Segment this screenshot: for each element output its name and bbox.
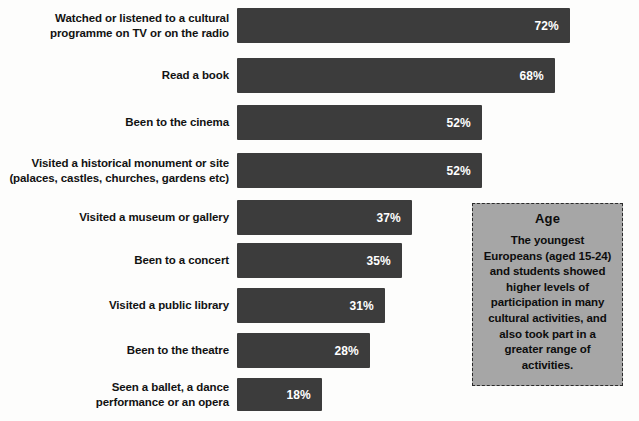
bar-value-label: 52% (446, 116, 471, 130)
bar-value-label: 35% (366, 254, 391, 268)
bar-fill: 52% (237, 153, 482, 188)
bar-row-label: Watched or listened to a cultural progra… (0, 11, 237, 40)
bar-value-label: 72% (534, 19, 559, 33)
bar-track: 68% (237, 58, 639, 93)
bar-chart: Watched or listened to a cultural progra… (0, 0, 639, 421)
bar-row-label-line1: Seen a ballet, a dance (112, 381, 229, 393)
bar-track: 52% (237, 105, 639, 140)
bar-row: Been to the cinema 52% (0, 105, 639, 140)
bar-fill: 28% (237, 333, 370, 368)
bar-value-label: 37% (376, 211, 401, 225)
callout-title: Age (480, 210, 615, 227)
bar-row-label: Visited a historical monument or site (p… (0, 156, 237, 185)
callout-body: The youngest Europeans (aged 15-24) and … (480, 233, 615, 373)
bar-track: 52% (237, 153, 639, 188)
bar-row-label-line1: Visited a public library (109, 299, 229, 311)
bar-row-label-line1: Visited a historical monument or site (32, 157, 229, 169)
bar-row-label: Visited a museum or gallery (0, 210, 237, 225)
bar-value-label: 52% (446, 164, 471, 178)
bar-fill: 52% (237, 105, 482, 140)
bar-row-label: Visited a public library (0, 298, 237, 313)
bar-value-label: 18% (286, 388, 311, 402)
bar-row-label-line1: Been to the theatre (127, 344, 229, 356)
bar-row-label-line1: Visited a museum or gallery (79, 211, 229, 223)
bar-value-label: 68% (519, 69, 544, 83)
bar-row-label: Been to the theatre (0, 343, 237, 358)
bar-fill: 35% (237, 243, 402, 278)
bar-row-label-line1: Been to a concert (134, 254, 229, 266)
bar-row-label: Read a book (0, 68, 237, 83)
bar-fill: 31% (237, 288, 385, 323)
bar-fill: 37% (237, 200, 412, 235)
bar-track: 72% (237, 8, 639, 43)
bar-value-label: 28% (334, 344, 359, 358)
bar-row-label-line2: (palaces, castles, churches, gardens etc… (9, 172, 229, 184)
bar-row-label-line1: Read a book (162, 69, 229, 81)
bar-row-label-line1: Watched or listened to a cultural (55, 12, 229, 24)
bar-row-label: Seen a ballet, a dance performance or an… (0, 380, 237, 409)
bar-row: Read a book 68% (0, 58, 639, 93)
bar-row-label: Been to the cinema (0, 115, 237, 130)
bar-value-label: 31% (349, 299, 374, 313)
bar-row-label-line2: programme on TV or on the radio (50, 27, 229, 39)
bar-row: Visited a historical monument or site (p… (0, 153, 639, 188)
bar-fill: 18% (237, 378, 322, 411)
bar-row-label-line2: performance or an opera (96, 396, 229, 408)
bar-row: Watched or listened to a cultural progra… (0, 8, 639, 43)
bar-fill: 68% (237, 58, 555, 93)
age-callout-box: Age The youngest Europeans (aged 15-24) … (472, 203, 623, 386)
bar-row-label: Been to a concert (0, 253, 237, 268)
bar-row-label-line1: Been to the cinema (125, 116, 229, 128)
bar-fill: 72% (237, 8, 570, 43)
